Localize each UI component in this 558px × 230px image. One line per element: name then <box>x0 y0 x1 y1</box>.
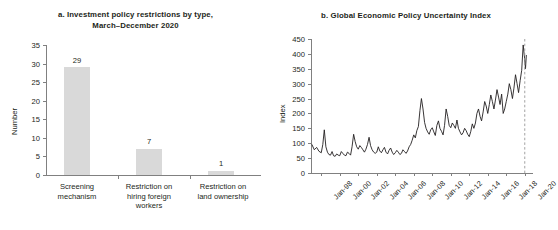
epu-index-line <box>312 45 526 156</box>
panel-a-xsep-1 <box>118 175 119 179</box>
panel-b-xtick-jan-18: Jan-18 <box>517 179 539 201</box>
panel-a-ytick-25: 25 <box>18 78 40 87</box>
cat-line: Restriction on <box>200 182 246 191</box>
panel-b-line-series <box>312 39 534 173</box>
panel-a-x-axis-line <box>46 175 261 176</box>
cat-line: mechanism <box>58 192 97 201</box>
panel-b-title: b. Global Economic Policy Uncertainty In… <box>271 10 541 21</box>
panel-a-category-screening-mechanism: Screening mechanism <box>44 182 110 201</box>
bar-restriction-hiring-foreign-workers[interactable] <box>136 149 162 175</box>
panel-b-xtick-jan-08: Jan-08 <box>424 179 446 201</box>
panel-b-xtick-jan-06: Jan-06 <box>406 179 428 201</box>
panel-a-ytick-0: 0 <box>18 171 40 180</box>
cat-line: workers <box>136 201 163 210</box>
panel-b-ytick-150: 150 <box>283 124 305 133</box>
bar-screening-mechanism[interactable] <box>64 67 90 175</box>
panel-b-xtickmark-jan-04 <box>377 173 378 176</box>
panel-b-xtick-jan-20: Jan-20 <box>535 179 557 201</box>
panel-a-ytick-10: 10 <box>18 133 40 142</box>
cat-line: land ownership <box>197 192 248 201</box>
panel-b-xtickmark-jan-06 <box>395 173 396 176</box>
panel-b-ytick-450: 450 <box>283 35 305 44</box>
bar-value-restriction-hiring-foreign-workers: 7 <box>129 137 169 146</box>
panel-b-ytick-250: 250 <box>283 94 305 103</box>
panel-b-ytick-350: 350 <box>283 64 305 73</box>
panel-b-xtick-jan-10: Jan-10 <box>443 179 465 201</box>
panel-b-ytick-300: 300 <box>283 79 305 88</box>
panel-b-xtickmark-jan-02 <box>358 173 359 176</box>
panel-b-xtickmark-jan-98 <box>321 173 322 176</box>
panel-b-x-axis-line <box>311 173 533 174</box>
bar-value-restriction-land-ownership: 1 <box>201 159 241 168</box>
panel-a-y-axis-line <box>46 45 47 175</box>
panel-b-xtick-jan-14: Jan-14 <box>480 179 502 201</box>
panel-b-ytick-50: 50 <box>283 154 305 163</box>
panel-b-xtickmark-jan-08 <box>414 173 415 176</box>
panel-a-xsep-2 <box>190 175 191 179</box>
panel-a-ytick-5: 5 <box>18 152 40 161</box>
panel-b-xtickmark-jan-12 <box>451 173 452 176</box>
panel-a-title-line1: a. Investment policy restrictions by typ… <box>58 10 213 19</box>
panel-a-ytick-15: 15 <box>18 115 40 124</box>
panel-b-ytick-100: 100 <box>283 139 305 148</box>
panel-a-ytick-20: 20 <box>18 96 40 105</box>
panel-b-ytick-0: 0 <box>283 169 305 178</box>
panel-b-xtickmark-jan-16 <box>488 173 489 176</box>
cat-line: Restriction on <box>126 182 172 191</box>
panel-b-xtickmark-jan-10 <box>432 173 433 176</box>
panel-a-ytick-30: 30 <box>18 59 40 68</box>
panel-a-ytick-35: 35 <box>18 41 40 50</box>
cat-line: hiring foreign <box>127 192 171 201</box>
panel-a-title-line2: March–December 2020 <box>92 21 178 30</box>
cat-line: Screening <box>60 182 94 191</box>
panel-b-xtickmark-jan-20 <box>525 173 526 176</box>
panel-a-title: a. Investment policy restrictions by typ… <box>0 9 271 31</box>
panel-b-xtick-jan-16: Jan-16 <box>498 179 520 201</box>
panel-b-xtick-jan-04: Jan-04 <box>387 179 409 201</box>
panel-b-xtick-jan-02: Jan-02 <box>369 179 391 201</box>
panel-b-xtick-jan-12: Jan-12 <box>461 179 483 201</box>
panel-b-xtickmark-jan-14 <box>469 173 470 176</box>
panel-b-xtick-jan-98: Jan-98 <box>332 179 354 201</box>
bar-restriction-land-ownership[interactable] <box>208 171 234 175</box>
panel-b-xtickmark-jan-00 <box>340 173 341 176</box>
panel-a-category-restriction-hiring-foreign-workers: Restriction on hiring foreign workers <box>115 182 183 211</box>
panel-b-global-epu-index: b. Global Economic Policy Uncertainty In… <box>271 0 541 230</box>
panel-b-xtickmark-jan-18 <box>506 173 507 176</box>
panel-b-ytick-400: 400 <box>283 49 305 58</box>
panel-a-investment-policy-restrictions: a. Investment policy restrictions by typ… <box>0 0 271 230</box>
panel-a-category-restriction-land-ownership: Restriction on land ownership <box>187 182 259 201</box>
bar-value-screening-mechanism: 29 <box>57 56 97 65</box>
panel-b-ytick-200: 200 <box>283 109 305 118</box>
panel-b-xtick-jan-00: Jan-00 <box>350 179 372 201</box>
